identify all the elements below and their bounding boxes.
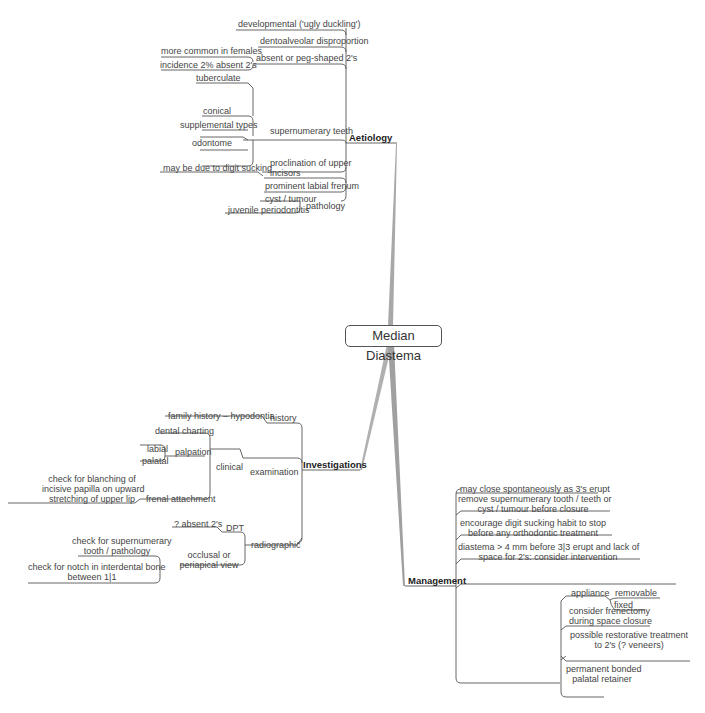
occlusal-line1: occlusal or <box>176 550 242 560</box>
node-more-common-females[interactable]: more common in females <box>161 46 262 56</box>
node-occlusal-periapical[interactable]: occlusal or periapical view <box>176 550 242 570</box>
node-absent-2s[interactable]: ? absent 2's <box>174 519 222 529</box>
node-frenal-attachment[interactable]: frenal attachment <box>146 494 216 504</box>
node-spontaneous-closure[interactable]: may close spontaneously as 3's erupt <box>460 484 610 494</box>
check-sn-line2: tooth / pathology <box>72 546 162 556</box>
diastema-line2: space for 2's: consider intervention <box>458 552 638 562</box>
retainer-line2: palatal retainer <box>566 674 638 684</box>
frenectomy-line1: consider frenectomy <box>569 606 652 616</box>
node-odontome[interactable]: odontome <box>192 138 232 148</box>
blanching-line3: stretching of upper lip <box>42 494 142 504</box>
node-restorative[interactable]: possible restorative treatment to 2's (?… <box>566 630 692 650</box>
retainer-line1: permanent bonded <box>566 664 638 674</box>
node-removable[interactable]: removable <box>615 588 657 598</box>
node-diastema-intervention[interactable]: diastema > 4 mm before 3|3 erupt and lac… <box>458 542 638 562</box>
branch-aetiology[interactable]: Aetiology <box>349 133 392 143</box>
check-notch-line2: between 1|1 <box>28 572 156 582</box>
node-check-notch[interactable]: check for notch in interdental bone betw… <box>28 562 156 582</box>
remove-line1: remove supernumerary tooth / teeth or <box>458 494 608 504</box>
node-supplemental[interactable]: supplemental <box>180 120 234 130</box>
remove-line2: cyst / tumour before closure <box>458 504 608 514</box>
check-sn-line1: check for supernumerary <box>72 536 162 546</box>
check-notch-line1: check for notch in interdental bone <box>28 562 156 572</box>
digit-line1: encourage digit sucking habit to stop <box>458 518 608 528</box>
node-types[interactable]: types <box>236 120 258 130</box>
digit-line2: before any orthodontic treatment <box>458 528 608 538</box>
node-clinical[interactable]: clinical <box>216 462 243 472</box>
node-proclination-line1: proclination of upper <box>270 158 352 168</box>
node-dentoalveolar[interactable]: dentoalveolar disproportion <box>260 36 369 46</box>
node-blanching-check[interactable]: check for blanching of incisive papilla … <box>42 474 142 504</box>
blanching-line2: incisive papilla on upward <box>42 484 142 494</box>
node-check-supernumerary[interactable]: check for supernumerary tooth / patholog… <box>72 536 162 556</box>
node-labial[interactable]: labial <box>147 444 168 454</box>
branch-investigations[interactable]: Investigations <box>303 460 367 470</box>
node-digit-habit[interactable]: encourage digit sucking habit to stop be… <box>458 518 608 538</box>
node-juvenile-periodontitis[interactable]: juvenile periodontitis <box>228 205 310 215</box>
node-pathology[interactable]: pathology <box>306 201 345 211</box>
diastema-line1: diastema > 4 mm before 3|3 erupt and lac… <box>458 542 638 552</box>
node-labial-frenum[interactable]: prominent labial frenum <box>265 181 359 191</box>
node-appliance[interactable]: appliance <box>571 588 610 598</box>
node-proclination-line2: incisors <box>270 168 352 178</box>
node-palpation[interactable]: palpation <box>175 447 212 457</box>
node-absent-peg[interactable]: absent or peg-shaped 2's <box>256 53 357 63</box>
node-dpt[interactable]: DPT <box>226 523 244 533</box>
frenectomy-line2: during space closure <box>569 616 652 626</box>
node-supernumerary-teeth[interactable]: supernumerary teeth <box>270 126 353 136</box>
node-incidence[interactable]: incidence 2% absent 2's <box>160 60 257 70</box>
node-palatal[interactable]: palatal <box>142 456 169 466</box>
branch-management[interactable]: Management <box>408 576 466 586</box>
node-remove-supernumerary[interactable]: remove supernumerary tooth / teeth or cy… <box>458 494 608 514</box>
occlusal-line2: periapical view <box>176 560 242 570</box>
node-dental-charting[interactable]: dental charting <box>155 426 214 436</box>
restorative-line2: to 2's (? veneers) <box>566 640 692 650</box>
node-bonded-retainer[interactable]: permanent bonded palatal retainer <box>566 664 638 684</box>
node-examination[interactable]: examination <box>250 467 299 477</box>
central-topic[interactable]: Median Diastema <box>345 325 442 347</box>
restorative-line1: possible restorative treatment <box>566 630 692 640</box>
node-conical[interactable]: conical <box>203 106 231 116</box>
node-developmental[interactable]: developmental ('ugly duckling') <box>238 19 361 29</box>
node-tuberculate[interactable]: tuberculate <box>196 73 241 83</box>
node-digit-sucking[interactable]: may be due to digit sucking <box>163 163 272 173</box>
node-proclination[interactable]: proclination of upper incisors <box>270 158 352 178</box>
node-family-history[interactable]: family history – hypodontia <box>168 411 275 421</box>
node-frenectomy[interactable]: consider frenectomy during space closure <box>569 606 652 626</box>
node-radiographic[interactable]: radiographic <box>251 540 301 550</box>
blanching-line1: check for blanching of <box>42 474 142 484</box>
